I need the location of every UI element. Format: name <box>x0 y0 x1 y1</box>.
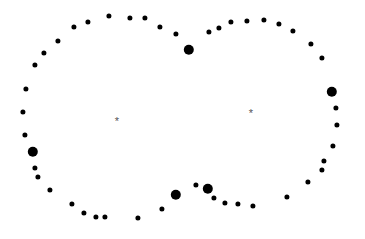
data-point <box>93 214 98 219</box>
data-point <box>55 38 60 43</box>
data-point <box>327 87 337 97</box>
data-point <box>305 179 310 184</box>
data-point <box>23 86 28 91</box>
data-point <box>106 13 111 18</box>
data-point <box>235 201 240 206</box>
data-point <box>28 147 38 157</box>
data-point <box>290 28 295 33</box>
data-point <box>319 167 324 172</box>
data-point <box>142 15 147 20</box>
data-point <box>193 182 198 187</box>
data-point <box>157 24 162 29</box>
data-point <box>69 201 74 206</box>
data-point <box>135 215 140 220</box>
data-point <box>333 105 338 110</box>
data-point <box>206 29 211 34</box>
data-point <box>250 203 255 208</box>
data-point <box>321 158 326 163</box>
data-point <box>184 45 194 55</box>
data-point <box>203 184 213 194</box>
data-point <box>284 194 289 199</box>
data-point <box>319 55 324 60</box>
data-point <box>276 21 281 26</box>
data-point <box>171 190 181 200</box>
data-point <box>81 210 86 215</box>
data-point <box>32 62 37 67</box>
data-point <box>71 24 76 29</box>
data-point <box>102 214 107 219</box>
data-point <box>41 50 46 55</box>
data-point <box>228 19 233 24</box>
data-point <box>159 206 164 211</box>
data-point <box>308 41 313 46</box>
data-point <box>334 122 339 127</box>
data-point <box>261 17 266 22</box>
data-point <box>22 132 27 137</box>
data-point <box>173 31 178 36</box>
data-point <box>35 174 40 179</box>
data-point <box>330 143 335 148</box>
data-point <box>211 195 216 200</box>
data-point <box>244 18 249 23</box>
data-point <box>47 187 52 192</box>
scatter-plot-canvas: ** <box>0 0 365 239</box>
data-point <box>32 165 37 170</box>
data-point <box>222 200 227 205</box>
data-point <box>127 15 132 20</box>
data-point <box>216 25 221 30</box>
data-point <box>85 19 90 24</box>
data-point <box>20 109 25 114</box>
right-cluster-center: * <box>249 108 253 119</box>
left-cluster-center: * <box>115 116 119 127</box>
